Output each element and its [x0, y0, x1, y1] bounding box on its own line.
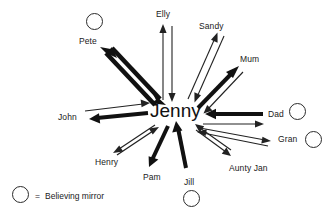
arrow-gran-jenny [197, 128, 271, 146]
believing-mirror-circle-dad [289, 103, 306, 120]
node-label-john: John [58, 113, 77, 122]
arrow-mum-jenny [198, 66, 243, 114]
node-label-mum: Mum [240, 55, 259, 64]
arrow-elly-jenny [159, 24, 175, 102]
arrow-henry-jenny [113, 125, 159, 155]
node-label-henry: Henry [95, 158, 118, 167]
arrow-sandy-jenny [188, 33, 224, 103]
node-label-sandy: Sandy [199, 22, 224, 31]
believing-mirror-circle-pete [86, 13, 103, 30]
legend-equals-sign: = [35, 192, 40, 201]
arrow-auntyjan-jenny [195, 124, 231, 156]
arrow-jill-jenny [172, 121, 186, 168]
node-label-pam: Pam [143, 173, 161, 182]
arrow-pete-jenny [100, 47, 166, 105]
relationship-diagram: Jenny Pete Elly Sandy Mum Dad Gran Aunty… [0, 0, 335, 219]
node-label-aunty-jan: Aunty Jan [229, 164, 268, 173]
legend-circle-icon [12, 186, 29, 203]
node-label-pete: Pete [79, 37, 97, 46]
arrow-dad-jenny [203, 109, 264, 128]
believing-mirror-circle-jill [183, 190, 200, 207]
believing-mirror-circle-gran [305, 131, 322, 148]
node-label-elly: Elly [156, 10, 170, 19]
node-label-jill: Jill [184, 178, 194, 187]
node-label-dad: Dad [268, 110, 284, 119]
legend-label: Believing mirror [45, 192, 104, 201]
node-label-gran: Gran [278, 135, 297, 144]
center-node-label: Jenny [150, 101, 201, 120]
arrow-john-jenny [85, 100, 150, 124]
